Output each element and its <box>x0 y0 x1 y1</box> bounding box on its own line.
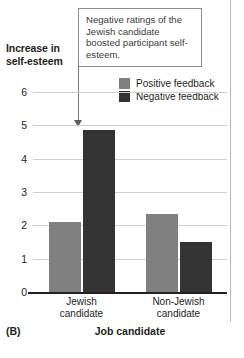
gridline <box>33 192 227 193</box>
y-axis-tick-label: 4 <box>21 153 27 164</box>
x-axis-title: Job candidate <box>33 325 227 337</box>
bar <box>146 214 178 292</box>
gridline <box>33 92 227 93</box>
x-axis-category-label-line: Jewish <box>33 296 130 308</box>
figure-panel-b: Increase in self-esteem Negative ratings… <box>0 0 244 358</box>
bar <box>180 242 212 292</box>
x-axis-baseline <box>28 292 227 294</box>
y-axis-tick-label: 1 <box>21 253 27 264</box>
x-axis-category-label-line: candidate <box>130 308 227 320</box>
annotation-text: Negative ratings of the Jewish candidate… <box>86 14 188 60</box>
y-axis-tick-label: 0 <box>21 287 27 298</box>
y-axis-tick-label: 6 <box>21 87 27 98</box>
x-axis-category-label: Jewishcandidate <box>33 296 130 319</box>
legend-swatch-positive-icon <box>119 78 130 89</box>
legend-item-positive-feedback: Positive feedback <box>119 78 219 89</box>
bar <box>49 222 81 292</box>
y-axis-tick-label: 3 <box>21 187 27 198</box>
bar <box>83 130 115 292</box>
y-axis-tick-label: 5 <box>21 120 27 131</box>
y-axis-tick-label: 2 <box>21 220 27 231</box>
x-axis-category-label-line: candidate <box>33 308 130 320</box>
plot-area: 0123456 <box>33 92 227 292</box>
gridline <box>33 125 227 126</box>
x-axis-category-label: Non-Jewishcandidate <box>130 296 227 319</box>
annotation-callout: Negative ratings of the Jewish candidate… <box>78 8 202 67</box>
x-axis-category-label-line: Non-Jewish <box>130 296 227 308</box>
gridline <box>33 159 227 160</box>
legend-label-positive: Positive feedback <box>136 78 214 89</box>
page-rule-divider <box>230 0 231 322</box>
panel-letter: (B) <box>6 325 21 337</box>
